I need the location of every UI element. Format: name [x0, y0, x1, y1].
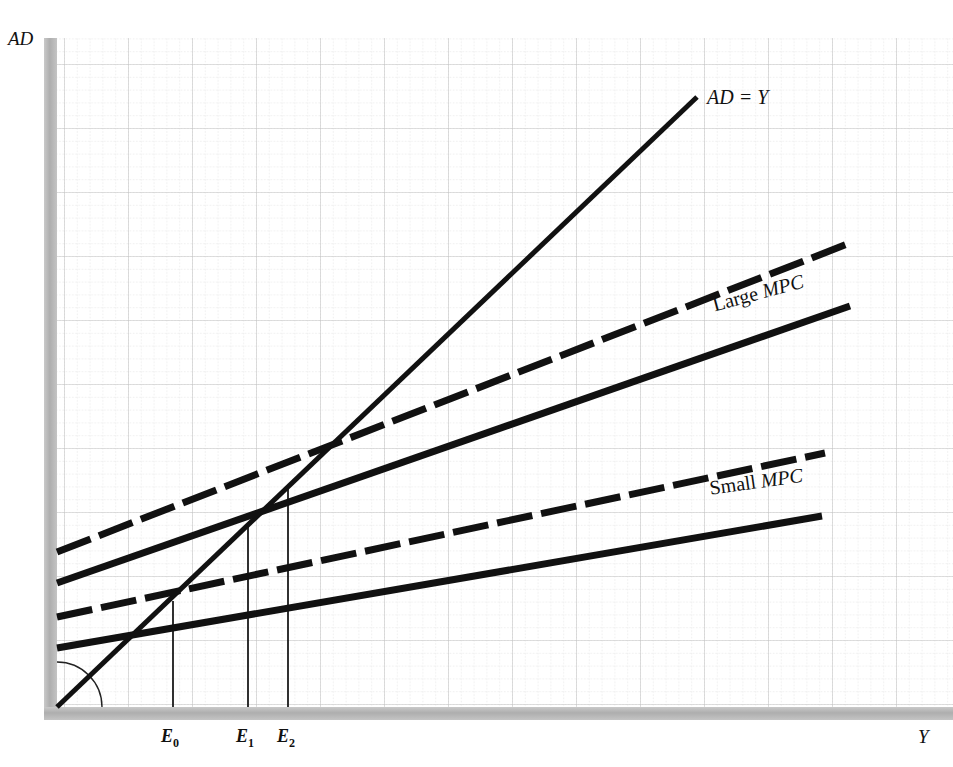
- tick-label-e1-base: E: [236, 726, 248, 746]
- tick-label-e0: E0: [161, 726, 179, 751]
- tick-label-e0-base: E: [161, 726, 173, 746]
- tick-label-e2-subscript: 2: [289, 736, 295, 750]
- graph-paper: [44, 38, 953, 710]
- y-axis-label: AD: [8, 28, 33, 50]
- ad-equals-y-label: AD = Y: [707, 86, 768, 109]
- x-axis-band: [44, 707, 953, 720]
- tick-label-e1: E1: [236, 726, 254, 751]
- tick-label-e1-subscript: 1: [248, 736, 254, 750]
- x-axis-label: Y: [918, 726, 929, 748]
- y-axis-band: [44, 38, 57, 720]
- chart-plot: [0, 0, 953, 767]
- tick-label-e2-base: E: [277, 726, 289, 746]
- tick-label-e2: E2: [277, 726, 295, 751]
- figure-canvas: AD Y E0 E1 E2 AD = Y Large MPC Small MPC: [0, 0, 953, 767]
- tick-label-e0-subscript: 0: [173, 736, 179, 750]
- small-mpc-label-italic: MPC: [759, 464, 804, 492]
